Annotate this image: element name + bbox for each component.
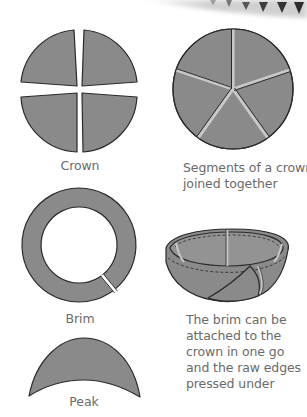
caption-brim-attached: The brim can be attached to the crown in…	[186, 312, 301, 392]
decorative-border	[140, 0, 307, 20]
brim-illustration	[22, 188, 136, 302]
crown-segments-illustration	[21, 30, 137, 152]
caption-line: attached to the	[186, 328, 301, 344]
brim-attached-illustration	[166, 229, 288, 302]
crown-joined-illustration	[173, 29, 293, 149]
caption-crown: Crown	[61, 158, 100, 174]
caption-line: Segments of a crown	[183, 160, 307, 176]
caption-peak: Peak	[69, 394, 98, 410]
caption-line: joined together	[183, 176, 307, 192]
caption-line: pressed under	[186, 376, 301, 392]
caption-line: and the raw edges	[186, 360, 301, 376]
caption-brim: Brim	[66, 311, 95, 327]
caption-line: crown in one go	[186, 344, 301, 360]
caption-crown-joined: Segments of a crown joined together	[183, 160, 307, 192]
peak-illustration	[29, 338, 140, 397]
caption-line: The brim can be	[186, 312, 301, 328]
